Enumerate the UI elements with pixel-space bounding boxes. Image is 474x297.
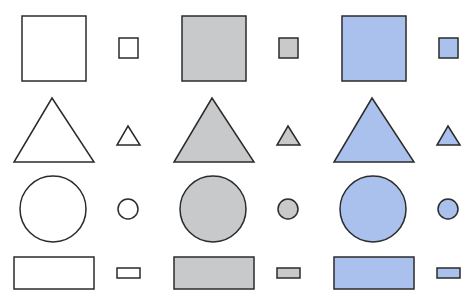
triangle-small-gray xyxy=(277,126,300,145)
rectangle-small-white xyxy=(117,268,140,278)
square-small-gray xyxy=(279,38,298,58)
circle-large-white xyxy=(20,176,86,242)
square-small-white xyxy=(119,38,138,58)
square-large-gray xyxy=(182,16,246,81)
rectangle-large-blue xyxy=(334,257,414,289)
circle-small-white xyxy=(118,199,138,219)
circle-large-gray xyxy=(180,176,246,242)
triangle-large-white xyxy=(14,98,94,162)
circle-large-blue xyxy=(340,176,406,242)
rectangle-small-gray xyxy=(277,268,300,278)
triangle-large-blue xyxy=(334,98,414,162)
triangle-small-white xyxy=(117,126,140,145)
triangle-small-blue xyxy=(437,126,460,145)
circle-small-gray xyxy=(278,199,298,219)
rectangle-large-gray xyxy=(174,257,254,289)
triangle-large-gray xyxy=(174,98,254,162)
rectangle-large-white xyxy=(14,257,94,289)
square-large-blue xyxy=(342,16,406,81)
rectangle-small-blue xyxy=(437,268,460,278)
square-small-blue xyxy=(439,38,458,58)
circle-small-blue xyxy=(438,199,458,219)
square-large-white xyxy=(22,16,86,81)
shape-grid xyxy=(0,0,474,297)
